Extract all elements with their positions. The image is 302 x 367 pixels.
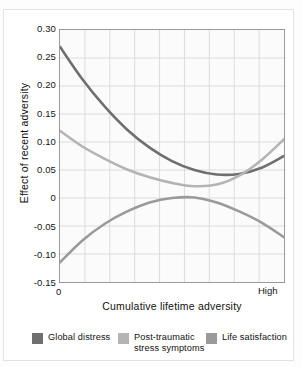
- y-axis-tick-label: 0.15: [10, 109, 56, 119]
- y-axis-tick-label: 0.30: [10, 24, 56, 34]
- series-line: [60, 47, 284, 175]
- series-line: [60, 131, 284, 187]
- y-axis-tick-label: 0.10: [10, 137, 56, 147]
- plot-block: Effect of recent adversity 0.300.250.200…: [0, 0, 302, 300]
- y-axis-tick-labels: 0.300.250.200.150.100.050-0.05-0.10-0.15: [4, 29, 56, 283]
- y-axis-tick-label: -0.10: [10, 250, 56, 260]
- legend-item: Life satisfaction: [206, 332, 287, 344]
- y-axis-tick-label: 0.25: [10, 52, 56, 62]
- x-axis-start-label: 0: [56, 286, 61, 297]
- x-axis-title: Cumulative lifetime adversity: [59, 300, 285, 312]
- legend-item: Post-traumatic stress symptoms: [118, 332, 204, 354]
- y-axis-tick-label: 0.20: [10, 80, 56, 90]
- legend-item-label: Post-traumatic stress symptoms: [134, 332, 204, 354]
- series-line: [60, 197, 284, 262]
- y-axis-tick-label: 0: [10, 193, 56, 203]
- legend-item-label: Life satisfaction: [222, 332, 287, 343]
- y-axis-tick-label: -0.05: [10, 222, 56, 232]
- x-axis-end-label: High: [258, 285, 278, 296]
- legend-item: Global distress: [32, 332, 110, 344]
- legend-swatch-icon: [206, 333, 217, 344]
- series-curves: [60, 30, 284, 282]
- plot-area: [59, 29, 285, 283]
- legend-swatch-icon: [118, 333, 129, 344]
- y-axis-tick-label: 0.05: [10, 165, 56, 175]
- chart-figure: Effect of recent adversity 0.300.250.200…: [0, 0, 302, 367]
- legend-item-label: Global distress: [48, 332, 110, 343]
- legend-swatch-icon: [32, 333, 43, 344]
- y-axis-tick-label: -0.15: [10, 278, 56, 288]
- chart-legend: Global distress Post-traumatic stress sy…: [0, 332, 302, 366]
